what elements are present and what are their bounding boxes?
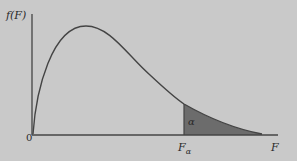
critical-value-label: Fα [178,142,191,156]
density-curve [33,26,262,134]
origin-label: 0 [26,133,32,143]
critical-value-symbol: F [178,141,186,154]
critical-value-subscript: α [186,147,191,156]
y-axis-label: f(F) [6,10,26,21]
alpha-area-label: α [188,117,195,127]
f-distribution-plot [0,0,297,161]
shaded-tail-region [184,104,262,135]
x-axis-label: F [271,142,279,153]
